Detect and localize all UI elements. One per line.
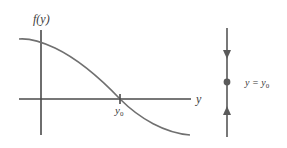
root-label: y0	[114, 104, 124, 118]
phase-line: y = y0	[223, 28, 270, 137]
equilibrium-label: y = y0	[244, 77, 270, 90]
arrow-down-icon	[223, 50, 231, 59]
x-axis-label: y	[195, 92, 202, 106]
phase-diagram: f(y) y y0 y = y0	[0, 0, 287, 148]
arrow-up-icon	[223, 106, 231, 115]
function-curve	[19, 39, 190, 135]
function-graph: f(y) y y0	[19, 12, 202, 135]
equilibrium-point	[224, 79, 231, 86]
y-axis-label: f(y)	[33, 12, 50, 26]
